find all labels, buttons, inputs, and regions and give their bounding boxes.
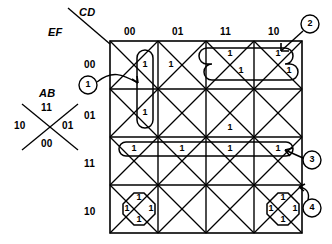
- cell-one-r10-c10-left: 1: [266, 204, 276, 213]
- cell-one-r11-c10-top: 1: [273, 144, 283, 153]
- marker-label-3: 3: [305, 155, 319, 164]
- ab-legend-right: 01: [62, 121, 74, 131]
- cell-one-r00-c11-top: 1: [225, 49, 235, 58]
- cell-one-r10-c10-top: 1: [278, 193, 288, 202]
- cell-one-r10-c00-left: 1: [122, 204, 132, 213]
- cell-one-r10-c10-right: 1: [290, 204, 300, 213]
- veitch-diagram-root: CD EF 00 01 11 10 00 01 11 10 AB 11 10 0…: [0, 0, 332, 244]
- cell-one-r01-c00-right: 1: [140, 108, 150, 117]
- ab-legend-caption: AB: [39, 88, 55, 99]
- cell-one-r01-c11-bottom: 1: [225, 123, 235, 132]
- ab-legend-top: 11: [41, 103, 52, 113]
- ab-legend-bottom: 00: [41, 139, 53, 149]
- cell-one-r00-c01-left: 1: [166, 60, 176, 69]
- column-header-10: 10: [268, 27, 280, 37]
- cell-one-r00-c11-right: 1: [236, 66, 246, 75]
- group-loop-2: [199, 48, 298, 80]
- cell-one-r00-c10-right: 1: [284, 66, 294, 75]
- marker-label-1: 1: [81, 80, 95, 89]
- column-header-00: 00: [124, 27, 136, 37]
- cell-one-r10-c00-right: 1: [146, 204, 156, 213]
- cell-one-r11-c00-top: 1: [129, 144, 139, 153]
- marker-circles: [79, 15, 321, 217]
- cell-one-r10-c00-top: 1: [134, 193, 144, 202]
- cell-one-r00-c10-top: 1: [273, 49, 283, 58]
- marker-label-4: 4: [305, 203, 319, 212]
- ab-legend-left: 10: [14, 121, 26, 131]
- cell-one-r11-c11-top: 1: [225, 144, 235, 153]
- column-header-01: 01: [172, 27, 184, 37]
- row-variable-label: EF: [48, 27, 62, 38]
- column-header-11: 11: [220, 27, 231, 37]
- cell-one-r10-c00-bottom: 1: [134, 215, 144, 224]
- row-header-11: 11: [84, 159, 95, 169]
- cell-one-r10-c10-bottom: 1: [278, 215, 288, 224]
- row-header-01: 01: [84, 111, 96, 121]
- marker-label-2: 2: [303, 19, 317, 28]
- row-header-00: 00: [84, 60, 96, 70]
- cell-one-r00-c00-right: 1: [140, 60, 150, 69]
- row-header-10: 10: [84, 207, 96, 217]
- column-variable-label: CD: [79, 7, 95, 18]
- cell-one-r11-c01-top: 1: [177, 144, 187, 153]
